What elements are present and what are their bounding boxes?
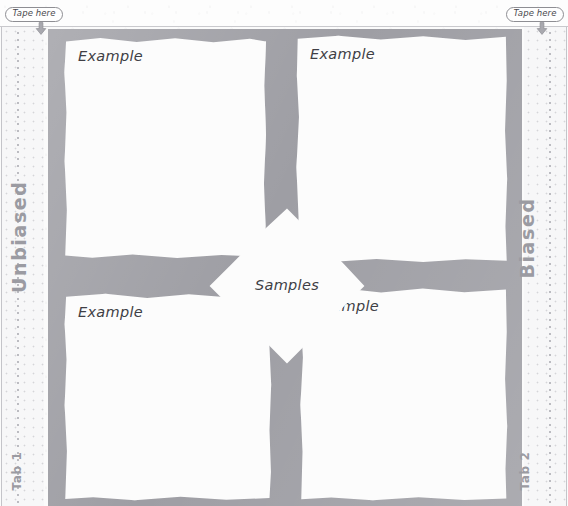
sheet-edge-rule-left [1, 27, 2, 506]
tape-marker-right: Tape here [504, 1, 566, 22]
axis-label-biased: Biased [516, 183, 538, 293]
quadrant-bottom-left[interactable]: Example [64, 293, 272, 501]
axis-label-unbiased: Unbiased [8, 183, 30, 293]
worksheet-page: Tape here Tape here Unbiased Biased Tab … [0, 0, 568, 506]
tab-label-2: Tab 2 [518, 436, 532, 506]
quadrant-frame: Example Example Example Example Samples [48, 29, 522, 506]
quadrant-top-right[interactable]: Example [296, 35, 508, 263]
perforation-strip-right [543, 27, 557, 506]
quadrant-label: Example [310, 46, 375, 62]
tape-here-label-left: Tape here [5, 7, 62, 22]
sheet-edge-rule-right [566, 27, 567, 506]
tape-marker-left: Tape here [3, 1, 65, 22]
samples-label: Samples [208, 277, 366, 293]
quadrant-label: Example [78, 304, 143, 320]
tape-here-label-right: Tape here [506, 7, 563, 22]
quadrant-top-left[interactable]: Example [64, 37, 266, 259]
quadrant-label: Example [78, 48, 143, 64]
tab-label-1: Tab 1 [10, 436, 24, 506]
worksheet-sheet: Unbiased Biased Tab 1 Tab 2 Example Exam… [0, 26, 568, 506]
